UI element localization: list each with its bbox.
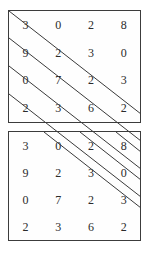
bottom-matrix-grid: 3 0 2 8 9 2 3 0 0 7 2 3 2 3 6 2 [9,132,140,240]
table-cell: 9 [9,39,42,67]
table-cell: 7 [42,67,75,95]
table-cell: 3 [9,11,42,39]
table-cell: 2 [75,132,108,159]
table-cell: 6 [75,213,108,240]
bottom-matrix: 3 0 2 8 9 2 3 0 0 7 2 3 2 3 6 2 [8,131,141,241]
table-cell: 2 [75,67,108,95]
table-cell: 3 [75,39,108,67]
table-cell: 2 [42,39,75,67]
table-cell: 2 [75,11,108,39]
matrix-diagram: 3 0 2 8 9 2 3 0 0 7 2 3 2 3 6 2 3 0 2 8 … [0,0,151,255]
table-cell: 0 [107,159,140,186]
table-cell: 0 [42,132,75,159]
table-cell: 2 [9,213,42,240]
table-cell: 0 [9,186,42,213]
table-cell: 2 [75,186,108,213]
table-cell: 2 [107,213,140,240]
table-cell: 3 [75,159,108,186]
table-cell: 3 [107,186,140,213]
table-cell: 0 [107,39,140,67]
table-cell: 8 [107,11,140,39]
table-cell: 3 [42,213,75,240]
table-cell: 3 [9,132,42,159]
table-cell: 8 [107,132,140,159]
table-cell: 2 [107,94,140,122]
table-cell: 7 [42,186,75,213]
table-cell: 2 [9,94,42,122]
table-cell: 3 [42,94,75,122]
table-cell: 2 [42,159,75,186]
table-cell: 6 [75,94,108,122]
table-cell: 0 [9,67,42,95]
table-cell: 9 [9,159,42,186]
top-matrix-grid: 3 0 2 8 9 2 3 0 0 7 2 3 2 3 6 2 [9,11,140,122]
table-cell: 3 [107,67,140,95]
top-matrix: 3 0 2 8 9 2 3 0 0 7 2 3 2 3 6 2 [8,10,141,123]
table-cell: 0 [42,11,75,39]
